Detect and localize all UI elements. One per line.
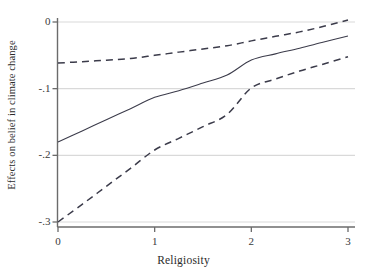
x-tick-label-3: 3: [328, 236, 367, 247]
x-tick-label-2: 2: [231, 236, 271, 247]
x-axis-label: Religiosity: [0, 254, 367, 266]
y-axis-label-container: Effects on belief in climate change: [0, 0, 22, 230]
data-curves: [58, 20, 348, 222]
tick-marks: [53, 22, 349, 232]
curve-2: [58, 57, 348, 222]
chart-figure: Effects on belief in climate change Reli…: [0, 0, 367, 275]
y-tick-label-2: -.2: [39, 149, 51, 160]
plot-area: [0, 0, 367, 275]
axis-lines: [58, 18, 356, 227]
y-tick-label-3: -.3: [39, 216, 51, 227]
curve-0: [58, 20, 348, 63]
x-tick-label-0: 0: [38, 236, 78, 247]
y-tick-label-1: -.1: [39, 83, 51, 94]
y-axis-label: Effects on belief in climate change: [6, 40, 17, 189]
y-tick-label-0: 0: [45, 16, 51, 27]
x-tick-label-1: 1: [135, 236, 175, 247]
